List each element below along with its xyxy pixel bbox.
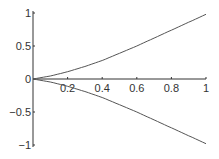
curve-upper: [33, 14, 206, 79]
curve-lower: [33, 79, 206, 144]
axes: [33, 11, 206, 147]
y-tick-label: 0.5: [16, 40, 31, 52]
y-tick-label: 1: [25, 7, 31, 19]
x-tick-label: 0.4: [95, 82, 110, 94]
y-tick-label: −1: [18, 139, 31, 151]
x-tick-label: 1: [203, 82, 209, 94]
x-tick-label: 0.8: [164, 82, 179, 94]
line-chart: 0.20.40.60.8110.50−0.5−1: [0, 0, 219, 159]
y-tick-label: 0: [25, 73, 31, 85]
x-tick-label: 0.6: [129, 82, 144, 94]
y-tick-label: −0.5: [9, 106, 31, 118]
